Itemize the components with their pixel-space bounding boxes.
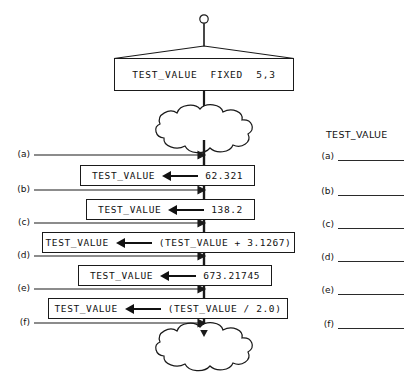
point-label-c: (c) — [8, 217, 30, 227]
assignment-arrow-icon — [125, 304, 161, 314]
answer-sheet-header: TEST_VALUE — [326, 129, 388, 140]
statement-c-text: TEST_VALUE (TEST_VALUE + 3.1267) — [46, 237, 292, 248]
answer-row-label-a: (a) — [316, 151, 334, 161]
statement-b-text: TEST_VALUE 138.2 — [98, 204, 243, 215]
declaration-box: TEST_VALUE FIXED 5,3 — [114, 58, 294, 91]
answer-row-label-f: (f) — [316, 319, 334, 329]
assignment-arrow-icon — [160, 271, 196, 281]
statement-a-value: 62.321 — [203, 170, 243, 181]
answer-row-line-c[interactable] — [338, 228, 404, 229]
flowchart-figure: TEST_VALUE FIXED 5,3 TEST_VALUE 62.321 T… — [0, 0, 409, 380]
statement-d-value: 673.21745 — [201, 270, 260, 281]
answer-row-label-d: (d) — [316, 252, 334, 262]
declaration-text: TEST_VALUE FIXED 5,3 — [132, 69, 275, 80]
point-label-b: (b) — [8, 184, 30, 194]
statement-e-value: (TEST_VALUE / 2.0) — [166, 303, 282, 314]
answer-row-label-b: (b) — [316, 186, 334, 196]
statement-b-value: 138.2 — [209, 204, 243, 215]
assignment-arrow-icon — [116, 238, 152, 248]
statement-e-variable: TEST_VALUE — [55, 303, 120, 314]
point-label-a: (a) — [8, 149, 30, 159]
assignment-arrow-icon — [168, 205, 204, 215]
statement-d-text: TEST_VALUE 673.21745 — [90, 270, 260, 281]
flow-line-art — [0, 0, 409, 380]
assignment-arrow-icon — [162, 171, 198, 181]
declaration-tent — [114, 46, 294, 59]
statement-a-text: TEST_VALUE 62.321 — [92, 170, 243, 181]
answer-row-line-d[interactable] — [338, 261, 404, 262]
answer-row-line-a[interactable] — [338, 160, 404, 161]
answer-row-line-b[interactable] — [338, 195, 404, 196]
answer-row-line-f[interactable] — [338, 328, 404, 329]
statement-a-variable: TEST_VALUE — [92, 170, 157, 181]
statement-box-d: TEST_VALUE 673.21745 — [78, 265, 272, 286]
statement-box-e: TEST_VALUE (TEST_VALUE / 2.0) — [48, 298, 288, 319]
lower-cloud-icon — [156, 323, 252, 371]
statement-e-text: TEST_VALUE (TEST_VALUE / 2.0) — [55, 303, 282, 314]
point-label-d: (d) — [8, 250, 30, 260]
statement-c-value: (TEST_VALUE + 3.1267) — [157, 237, 292, 248]
point-label-e: (e) — [8, 283, 30, 293]
answer-row-line-e[interactable] — [338, 294, 404, 295]
answer-row-label-c: (c) — [316, 219, 334, 229]
statement-b-variable: TEST_VALUE — [98, 204, 163, 215]
answer-row-label-e: (e) — [316, 285, 334, 295]
point-label-f: (f) — [8, 317, 30, 327]
statement-box-a: TEST_VALUE 62.321 — [80, 165, 255, 186]
start-circle-icon — [200, 15, 208, 23]
statement-c-variable: TEST_VALUE — [46, 237, 111, 248]
statement-box-b: TEST_VALUE 138.2 — [86, 199, 255, 220]
statement-box-c: TEST_VALUE (TEST_VALUE + 3.1267) — [42, 232, 295, 253]
statement-d-variable: TEST_VALUE — [90, 270, 155, 281]
